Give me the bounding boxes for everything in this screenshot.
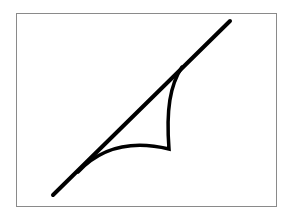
figure-frame bbox=[17, 14, 277, 207]
diagram-canvas bbox=[0, 0, 293, 219]
